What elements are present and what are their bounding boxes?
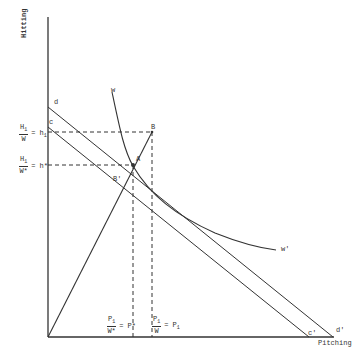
label-d-prime: d' xyxy=(336,327,344,334)
label-w: w xyxy=(111,87,115,94)
label-d: d xyxy=(54,99,58,106)
y-axis-label: Hitting xyxy=(20,9,28,38)
point-A-marker xyxy=(131,163,135,167)
label-B-prime: B' xyxy=(113,176,121,183)
y-tick-hstar: H1 W* = h* xyxy=(19,156,48,175)
x-axis-label: Pitching xyxy=(318,340,352,347)
label-B: B xyxy=(151,124,155,131)
diagram-canvas xyxy=(0,0,360,350)
x-tick-pstar: P1 W* = P* xyxy=(107,316,136,335)
label-c: c xyxy=(49,119,53,126)
label-c-prime: c' xyxy=(308,330,316,337)
y-tick-h1: H1 W = h1 xyxy=(19,124,47,143)
x-tick-p1: P1 W = P1 xyxy=(152,316,180,335)
label-A: A xyxy=(136,156,140,163)
budget-line-cc xyxy=(48,127,309,337)
label-w-prime: w' xyxy=(281,246,289,253)
indifference-curve-ww xyxy=(112,92,276,250)
point-B-marker xyxy=(151,131,154,134)
budget-line-dd xyxy=(48,107,333,337)
